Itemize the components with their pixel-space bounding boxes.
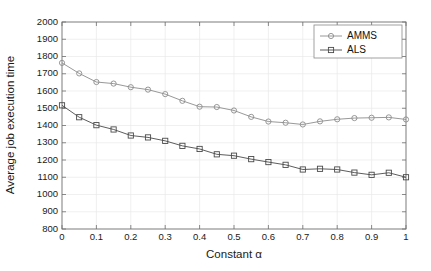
y-tick-label: 1500 [37, 102, 58, 113]
x-axis-label: Constant α [206, 248, 262, 260]
y-tick-label: 1000 [37, 188, 58, 199]
y-tick-label: 1800 [37, 50, 58, 61]
y-axis-label: Average job execution time [4, 56, 16, 195]
x-tick-label: 0.1 [90, 231, 103, 242]
x-tick-label: 0.2 [124, 231, 137, 242]
y-tick-label: 1400 [37, 119, 58, 130]
x-tick-label: 0.8 [331, 231, 344, 242]
y-tick-label: 800 [42, 223, 58, 234]
line-chart-svg: 8009001000110012001300140015001600170018… [0, 0, 431, 271]
chart-legend: AMMSALS [314, 25, 402, 58]
x-tick-label: 0 [59, 231, 64, 242]
y-tick-label: 1700 [37, 67, 58, 78]
y-tick-label: 1600 [37, 85, 58, 96]
x-tick-label: 0.3 [159, 231, 172, 242]
x-tick-label: 1 [403, 231, 408, 242]
legend-label: AMMS [347, 30, 377, 41]
y-tick-label: 1900 [37, 33, 58, 44]
legend-label: ALS [347, 44, 366, 55]
x-tick-label: 0.6 [262, 231, 275, 242]
x-tick-label: 0.9 [365, 231, 378, 242]
y-tick-label: 1200 [37, 154, 58, 165]
chart-figure: 8009001000110012001300140015001600170018… [0, 0, 431, 271]
y-tick-label: 900 [42, 205, 58, 216]
y-tick-label: 1300 [37, 136, 58, 147]
x-tick-label: 0.5 [227, 231, 240, 242]
y-tick-label: 1100 [38, 171, 58, 182]
x-tick-label: 0.7 [296, 231, 309, 242]
y-tick-label: 2000 [37, 16, 58, 27]
x-tick-label: 0.4 [193, 231, 206, 242]
